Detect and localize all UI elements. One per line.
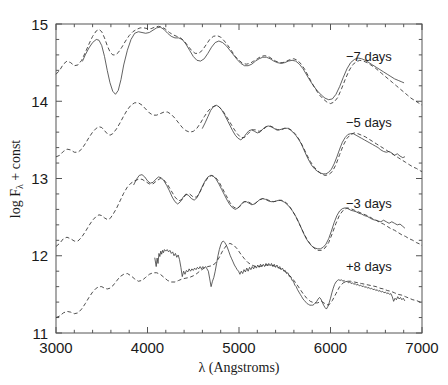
x-tick-label: 7000 (405, 339, 438, 356)
x-tick-label: 6000 (314, 339, 347, 356)
y-tick-label: 15 (31, 16, 48, 33)
y-tick-label: 13 (31, 170, 48, 187)
spectrum-curve (56, 26, 422, 105)
spectrum-curve (134, 175, 405, 249)
plot-frame (56, 24, 422, 333)
spectrum-curve (155, 241, 405, 309)
svg-text:log Fλ + const: log Fλ + const (8, 140, 25, 219)
spectra-figure: 30004000500060007000 1112131415 −7 days−… (0, 0, 448, 385)
epoch-label: −7 days (346, 49, 392, 64)
epoch-label: −3 days (346, 196, 392, 211)
y-axis-title: log Fλ + const (8, 140, 25, 219)
epoch-label: −5 days (346, 115, 392, 130)
axis-ticks (56, 24, 422, 333)
y-tick-label: 11 (32, 325, 48, 342)
x-tick-labels: 30004000500060007000 (39, 339, 438, 356)
x-tick-label: 5000 (222, 339, 255, 356)
epoch-annotations: −7 days−5 days−3 days+8 days (346, 49, 392, 274)
x-axis-title: λ (Angstroms) (198, 360, 279, 376)
y-tick-labels: 1112131415 (31, 16, 48, 342)
spectra-plot: 30004000500060007000 1112131415 −7 days−… (0, 0, 448, 385)
y-tick-label: 14 (31, 93, 48, 110)
y-tick-label: 12 (31, 247, 48, 264)
spectrum-curve (56, 175, 422, 250)
epoch-label: +8 days (346, 259, 392, 274)
x-tick-label: 3000 (39, 339, 72, 356)
spectrum-curve (56, 243, 422, 317)
x-tick-label: 4000 (131, 339, 164, 356)
